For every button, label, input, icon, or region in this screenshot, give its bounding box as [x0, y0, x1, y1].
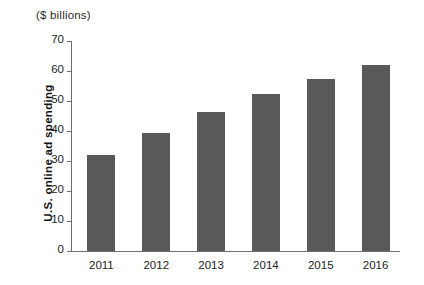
bar-2011 [87, 155, 115, 251]
y-tick-label: 10 [51, 213, 64, 225]
y-tick-10: 10 [71, 221, 72, 222]
x-axis-line [71, 251, 400, 252]
y-tick-label: 30 [51, 153, 64, 165]
bar-chart-figure: ($ billions) U.S. online ad spending 010… [0, 0, 424, 285]
y-tick-50: 50 [71, 101, 72, 102]
y-tick-mark [67, 161, 71, 162]
bar-2015 [307, 79, 335, 252]
y-tick-mark [67, 131, 71, 132]
plot-area: 010203040506070 201120122013201420152016 [71, 41, 400, 251]
x-tick-label-2012: 2012 [126, 259, 186, 271]
y-tick-20: 20 [71, 191, 72, 192]
x-tick-label-2011: 2011 [71, 259, 131, 271]
y-tick-label: 70 [51, 33, 64, 45]
bar-2012 [142, 133, 170, 252]
bar-2016 [362, 65, 390, 251]
bar-2013 [197, 112, 225, 252]
x-tick-label-2016: 2016 [346, 259, 406, 271]
y-tick-30: 30 [71, 161, 72, 162]
y-tick-mark [67, 221, 71, 222]
y-tick-mark [67, 251, 71, 252]
y-tick-mark [67, 41, 71, 42]
y-tick-label: 60 [51, 63, 64, 75]
y-tick-label: 40 [51, 123, 64, 135]
y-tick-mark [67, 101, 71, 102]
x-tick-label-2014: 2014 [236, 259, 296, 271]
bar-2014 [252, 94, 280, 252]
y-tick-40: 40 [71, 131, 72, 132]
y-tick-0: 0 [71, 251, 72, 252]
x-tick-label-2013: 2013 [181, 259, 241, 271]
chart-unit-caption: ($ billions) [36, 9, 91, 21]
y-tick-60: 60 [71, 71, 72, 72]
y-tick-label: 50 [51, 93, 64, 105]
y-tick-mark [67, 191, 71, 192]
y-tick-mark [67, 71, 71, 72]
x-tick-label-2015: 2015 [291, 259, 351, 271]
y-tick-label: 0 [58, 243, 64, 255]
y-tick-70: 70 [71, 41, 72, 42]
y-tick-label: 20 [51, 183, 64, 195]
